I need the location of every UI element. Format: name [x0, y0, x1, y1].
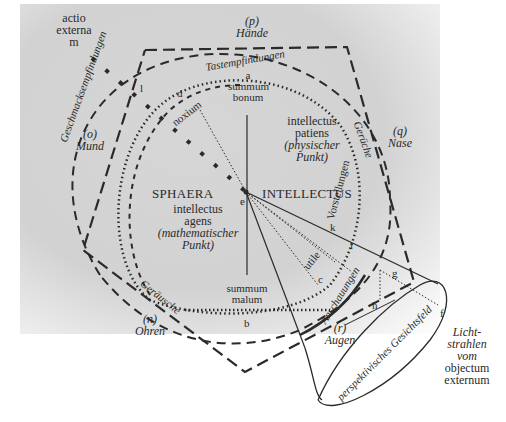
- point-i: i: [350, 240, 353, 251]
- point-l: l: [140, 83, 143, 94]
- mund-label: (o) Mund: [68, 128, 112, 152]
- nase-name: Nase: [382, 137, 418, 149]
- point-g: g: [392, 268, 398, 279]
- cone-g-f: [380, 270, 438, 305]
- agens-line4: Punkt): [150, 239, 246, 251]
- mund-name: Mund: [68, 140, 112, 152]
- noxium-line: [200, 110, 246, 192]
- augen-label: (r) Augen: [318, 322, 362, 346]
- ray-utile: [246, 192, 318, 285]
- point-k: k: [330, 222, 336, 233]
- point-h: h: [372, 300, 378, 311]
- summum-bonum-label: a summum bonum: [228, 70, 268, 103]
- ohren-name: Ohren: [128, 325, 172, 337]
- externum-text: externum: [432, 374, 502, 386]
- intellectus-patiens-label: intellectus patiens (physischer Punkt): [272, 115, 352, 163]
- ohren-label: (n) Ohren: [128, 313, 172, 337]
- nase-label: (q) Nase: [382, 125, 418, 149]
- ray-solid-upper: [246, 192, 438, 284]
- haende-name: Hände: [222, 27, 282, 39]
- intellectus-agens-label: intellectus agens (mathematischer Punkt): [150, 203, 246, 251]
- point-c: c: [318, 274, 323, 285]
- center-point-e: [244, 190, 249, 195]
- cone-lower-edge: [305, 348, 322, 400]
- actio-line: [92, 58, 246, 192]
- sphaera-title: SPHAERA: [152, 187, 213, 200]
- point-b: b: [244, 318, 250, 329]
- augen-name: Augen: [318, 334, 362, 346]
- point-d: d: [177, 88, 183, 99]
- malum-text: malum: [222, 294, 272, 305]
- point-f: f: [440, 308, 444, 319]
- bonum-text: bonum: [228, 92, 268, 103]
- haende-label: (p) Hände: [222, 15, 282, 39]
- lichtstrahlen-label: Licht- strahlen vom objectum externum: [432, 326, 502, 386]
- diagram-canvas: actio externa m l (p) Hände Tastempfindu…: [0, 0, 506, 422]
- summum-malum-label: summum malum: [222, 283, 272, 305]
